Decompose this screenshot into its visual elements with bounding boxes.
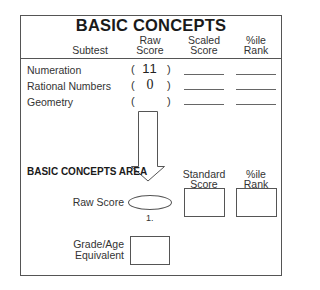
percentile-rational-numbers[interactable] <box>236 89 276 90</box>
scaled-score-rational-numbers[interactable] <box>184 89 224 90</box>
header-divider <box>20 58 282 59</box>
percentile-geometry[interactable] <box>236 104 276 105</box>
label-standard-score: Standard Score <box>176 169 232 189</box>
standard-score-box[interactable] <box>184 188 225 217</box>
paren-open: ( <box>131 79 135 91</box>
form-title: BASIC CONCEPTS <box>20 16 282 35</box>
area-percentile-rank-box[interactable] <box>236 188 277 217</box>
scaled-score-geometry[interactable] <box>184 104 224 105</box>
paren-close: ) <box>167 79 171 91</box>
header-raw-score: Raw Score <box>122 35 178 55</box>
label-grade-age-line2: Equivalent <box>60 250 124 261</box>
row-label-numeration: Numeration <box>27 64 81 76</box>
area-title: BASIC CONCEPTS AREA <box>27 166 147 177</box>
grade-age-equivalent-box[interactable] <box>130 236 170 265</box>
paren-open: ( <box>131 63 135 75</box>
raw-score-note: 1. <box>146 213 154 223</box>
label-area-percentile-rank: %ile Rank <box>230 169 282 189</box>
row-label-rational-numbers: Rational Numbers <box>27 80 111 92</box>
paren-open: ( <box>131 95 135 107</box>
paren-close: ) <box>167 95 171 107</box>
paren-close: ) <box>167 63 171 75</box>
area-raw-score-oval[interactable] <box>128 195 172 210</box>
raw-score-rational-numbers[interactable]: 0 <box>142 77 158 93</box>
percentile-numeration[interactable] <box>236 74 276 75</box>
header-raw-score-line2: Score <box>122 45 178 55</box>
header-scaled-score-line2: Score <box>178 45 230 55</box>
label-grade-age-equivalent: Grade/Age Equivalent <box>60 239 124 261</box>
header-scaled-score: Scaled Score <box>178 35 230 55</box>
label-raw-score: Raw Score <box>60 197 124 208</box>
row-label-geometry: Geometry <box>27 96 73 108</box>
header-percentile-rank: %ile Rank <box>230 35 282 55</box>
scaled-score-numeration[interactable] <box>184 74 224 75</box>
header-percentile-rank-line2: Rank <box>230 45 282 55</box>
raw-score-numeration[interactable]: 11 <box>142 61 158 76</box>
